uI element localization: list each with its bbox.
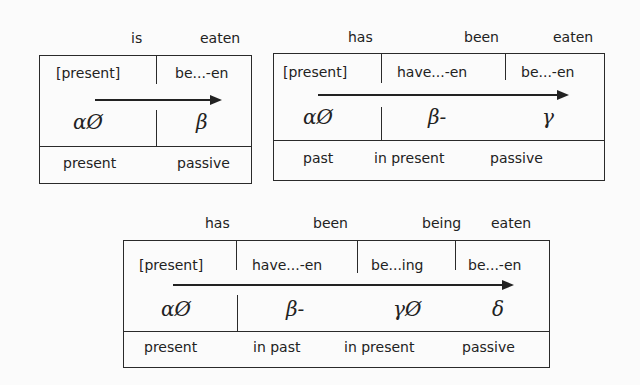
arrow-icon [173,284,511,286]
arrow-icon [318,94,566,96]
divider [236,240,237,270]
morpheme: [present] [139,257,203,273]
label: in present [374,150,444,166]
symbol: β- [286,297,304,321]
divider [156,110,157,147]
divider [357,240,358,273]
label: present [63,155,116,171]
morpheme: [present] [56,65,120,81]
arrow-icon [95,99,219,101]
divider [237,295,238,332]
word-been: been [464,29,499,45]
label: past [303,150,333,166]
word-has: has [205,215,230,231]
label: in present [344,339,414,355]
divider [156,55,157,84]
morpheme: [present] [283,64,347,80]
divider [273,140,605,141]
morpheme: have...-en [252,257,322,273]
label: passive [462,339,515,355]
divider [39,146,252,147]
word-been: been [313,215,348,231]
symbol: αØ [73,110,103,134]
symbol: δ [492,297,504,321]
divider [505,53,506,80]
divider [381,107,382,141]
label: in past [253,339,300,355]
symbol: β- [428,105,446,129]
word-eaten: eaten [491,215,531,231]
symbol: γØ [393,297,421,321]
word-is: is [131,30,142,46]
morpheme: be...-en [468,257,521,273]
morpheme: be...-en [175,65,228,81]
symbol: αØ [161,297,191,321]
label: passive [177,155,230,171]
label: passive [490,150,543,166]
divider [381,53,382,83]
word-has: has [348,29,373,45]
morpheme: have...-en [397,64,467,80]
word-being: being [422,215,461,231]
word-eaten: eaten [553,29,593,45]
divider [123,331,550,332]
symbol: β [196,110,208,134]
label: present [144,339,197,355]
morpheme: be...ing [371,257,424,273]
divider [455,240,456,270]
word-eaten: eaten [200,30,240,46]
morpheme: be...-en [521,64,574,80]
symbol: αØ [303,105,333,129]
symbol: γ [542,105,554,129]
